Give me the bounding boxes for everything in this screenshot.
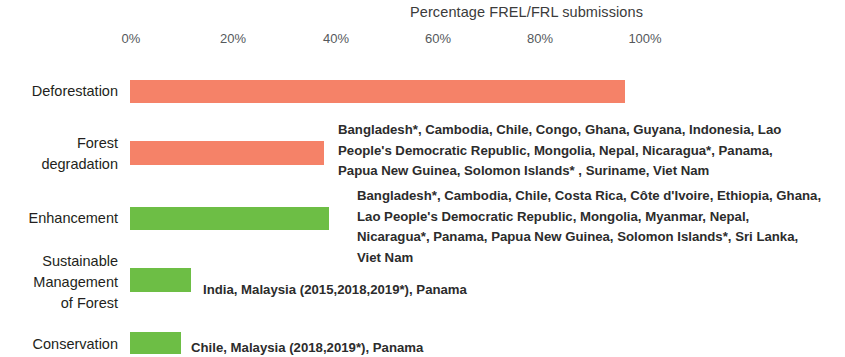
category-label-conservation: Conservation [33,334,118,355]
category-label-enhancement: Enhancement [29,208,118,229]
bar-conservation [130,332,181,354]
bar-enhancement [130,207,329,230]
category-label-forest-degradation: Forest degradation [41,133,118,175]
category-label-deforestation: Deforestation [32,81,118,102]
x-tick-60: 60% [425,31,451,46]
annotation-sustainable-management: India, Malaysia (2015,2018,2019*), Panam… [203,280,467,300]
x-tick-100: 100% [628,31,661,46]
annotation-conservation: Chile, Malaysia (2018,2019*), Panama [191,338,423,357]
chart-title: Percentage FREL/FRL submissions [410,4,710,20]
annotation-forest-degradation: Bangladesh*, Cambodia, Chile, Congo, Gha… [338,120,843,182]
x-tick-0: 0% [122,31,141,46]
bar-forest-degradation [130,141,324,165]
x-tick-40: 40% [323,31,349,46]
category-label-sustainable-management: Sustainable Management of Forest [33,251,118,314]
x-tick-20: 20% [220,31,246,46]
bar-sustainable-management [130,268,191,292]
annotation-enhancement: Bangladesh*, Cambodia, Chile, Costa Rica… [357,186,845,268]
x-tick-80: 80% [527,31,553,46]
bar-deforestation [130,80,625,103]
chart-container: Percentage FREL/FRL submissions 0% 20% 4… [0,0,845,357]
